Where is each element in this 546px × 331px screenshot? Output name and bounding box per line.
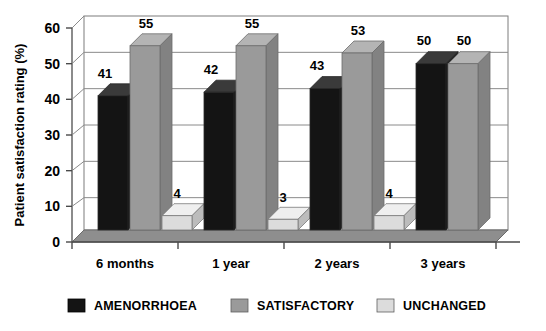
bar-satisfactory-3-years [448, 52, 490, 230]
bar-value-label: 41 [98, 66, 112, 81]
bar-group-3-years: 50 50 [416, 33, 490, 230]
bar-value-label: 4 [173, 186, 181, 201]
plot-floor [72, 230, 508, 242]
legend: AMENORRHOEA SATISFACTORY UNCHANGED [68, 299, 486, 313]
legend-swatch-unchanged [377, 299, 394, 312]
y-tick-label: 50 [44, 56, 60, 72]
x-category-label-3-years: 3 years [421, 256, 466, 271]
bar-satisfactory-2-years [342, 41, 384, 230]
chart-svg: 60 50 40 30 20 10 0 Patient satisfaction… [0, 0, 546, 331]
bar-value-label: 43 [310, 58, 324, 73]
bar-value-label: 50 [457, 33, 471, 48]
bar-value-label: 42 [204, 62, 218, 77]
bar-value-label: 55 [139, 16, 153, 31]
bar-value-label: 3 [279, 190, 286, 205]
x-category-label-1-year: 1 year [212, 256, 250, 271]
bar-value-label: 53 [351, 23, 365, 38]
bar-satisfactory-6-months [130, 34, 172, 230]
legend-item-unchanged[interactable]: UNCHANGED [377, 299, 486, 313]
bar-value-label: 50 [417, 33, 431, 48]
bar-value-label: 55 [245, 16, 259, 31]
legend-label-amenorrhoea: AMENORRHOEA [94, 299, 197, 313]
y-tick-label: 10 [44, 198, 60, 214]
y-tick-label: 40 [44, 91, 60, 107]
legend-swatch-amenorrhoea [68, 299, 85, 312]
legend-label-satisfactory: SATISFACTORY [257, 299, 355, 313]
bar-chart: 60 50 40 30 20 10 0 Patient satisfaction… [0, 0, 546, 331]
y-tick-label: 0 [52, 234, 60, 250]
y-tick-label: 30 [44, 127, 60, 143]
legend-swatch-satisfactory [231, 299, 248, 312]
x-category-label-2-years: 2 years [315, 256, 360, 271]
bar-value-label: 4 [385, 186, 393, 201]
y-axis-title: Patient satisfaction rating (%) [12, 44, 27, 227]
x-category-label-6-months: 6 months [96, 256, 154, 271]
bar-satisfactory-1-year [236, 34, 278, 230]
y-tick-label: 60 [44, 20, 60, 36]
legend-label-unchanged: UNCHANGED [403, 299, 486, 313]
y-tick-label: 20 [44, 163, 60, 179]
